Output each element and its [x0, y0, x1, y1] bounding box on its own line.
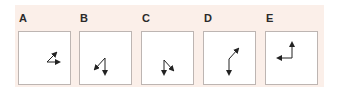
option-box	[141, 31, 194, 85]
option-box	[203, 31, 256, 85]
option-box	[79, 31, 132, 85]
arrows-icon	[142, 32, 193, 84]
option-label: C	[142, 12, 150, 24]
option-label: E	[266, 12, 273, 24]
arrows-icon	[80, 32, 131, 84]
arrows-icon	[19, 32, 70, 84]
option-box	[265, 31, 318, 85]
option-label: D	[204, 12, 212, 24]
arrows-icon	[266, 32, 317, 84]
arrows-icon	[204, 32, 255, 84]
option-label: B	[80, 12, 88, 24]
figure-panel: A B C D	[15, 5, 324, 87]
option-box	[18, 31, 71, 85]
option-label: A	[19, 12, 27, 24]
